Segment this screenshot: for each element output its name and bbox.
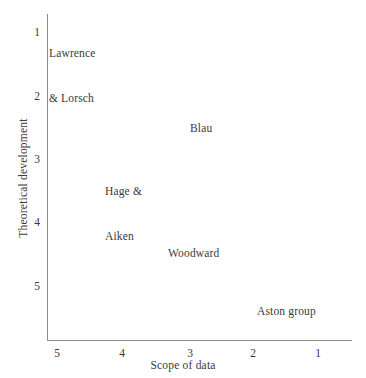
data-point-lawrence-lorsch: Lawrence & Lorsch: [49, 16, 96, 136]
data-point-label-line1: Hage &: [105, 184, 142, 199]
y-axis-title: Theoretical development: [17, 83, 29, 273]
data-point-label-line1: Blau: [190, 121, 212, 136]
x-axis-tick-2: 2: [245, 348, 261, 360]
data-point-label-line2: Aiken: [105, 229, 142, 244]
data-point-hage-aiken: Hage & Aiken: [105, 154, 142, 274]
scatter-chart: 1 2 3 4 5 5 4 3 2 1 Scope of data Theore…: [0, 0, 366, 378]
x-axis-title: Scope of data: [0, 359, 366, 371]
x-axis-tick-4: 4: [114, 348, 130, 360]
y-axis-line: [47, 14, 48, 340]
x-axis-tick-3: 3: [182, 348, 198, 360]
data-point-label-line1: Lawrence: [49, 46, 96, 61]
data-point-label-line1: Aston group: [257, 304, 316, 319]
x-axis-tick-1: 1: [310, 348, 326, 360]
y-axis-tick-5: 5: [26, 281, 40, 293]
data-point-aston-group: Aston group: [257, 274, 316, 349]
data-point-woodward: Woodward: [168, 216, 219, 291]
data-point-label-line1: Woodward: [168, 246, 219, 261]
data-point-label-line2: & Lorsch: [49, 91, 96, 106]
y-axis-tick-1: 1: [26, 27, 40, 39]
x-axis-tick-5: 5: [49, 348, 65, 360]
data-point-blau: Blau: [190, 91, 212, 166]
